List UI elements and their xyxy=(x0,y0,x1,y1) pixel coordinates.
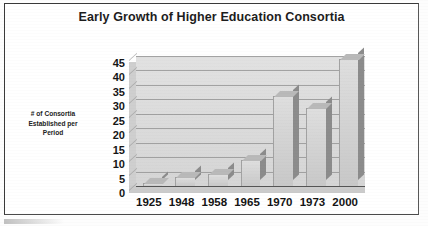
bar-slot xyxy=(339,56,359,186)
bar-side-face xyxy=(326,97,332,180)
bar-top-face xyxy=(144,178,169,184)
y-axis-title-line-3: Period xyxy=(13,128,93,138)
bar-side-face xyxy=(358,47,364,180)
bar-side-face xyxy=(260,149,266,180)
bar-1965[interactable] xyxy=(241,160,261,186)
y-axis-tick-20: 20 xyxy=(113,130,125,141)
bar-slot xyxy=(273,56,293,186)
bar-slot xyxy=(175,56,195,186)
page-edge-artifact xyxy=(4,219,64,224)
bar-1925[interactable] xyxy=(143,183,163,186)
y-axis-title: # of Consortia Established per Period xyxy=(13,109,93,138)
chart-frame: Early Growth of Higher Education Consort… xyxy=(4,3,419,215)
y-axis-tick-15: 15 xyxy=(113,144,125,155)
x-axis-tick-1958: 1958 xyxy=(201,197,227,209)
plot-area xyxy=(129,56,365,193)
y-axis-tick-25: 25 xyxy=(113,115,125,126)
x-axis-tick-1965: 1965 xyxy=(234,197,260,209)
bar-1970[interactable] xyxy=(273,96,293,186)
bar-slot xyxy=(306,56,326,186)
x-axis-tick-1948: 1948 xyxy=(169,197,195,209)
bars-layer xyxy=(136,56,365,186)
x-axis-tick-1970: 1970 xyxy=(267,197,293,209)
y-axis-title-line-2: Established per xyxy=(13,119,93,129)
bar-slot xyxy=(241,56,261,186)
y-axis-tick-5: 5 xyxy=(119,173,125,184)
bar-slot xyxy=(143,56,163,186)
bar-slot xyxy=(208,56,228,186)
x-axis-tick-labels: 1925194819581965197019732000 xyxy=(129,197,365,215)
y-axis-tick-40: 40 xyxy=(113,72,125,83)
plot-wrapper: 454035302520151050 192519481958196519701… xyxy=(101,56,401,211)
y-axis-tick-labels: 454035302520151050 xyxy=(101,56,125,193)
bar-1973[interactable] xyxy=(306,108,326,186)
bar-2000[interactable] xyxy=(339,59,359,186)
y-axis-tick-45: 45 xyxy=(113,58,125,69)
gridline-0 xyxy=(136,186,365,187)
y-axis-tick-30: 30 xyxy=(113,101,125,112)
chart-title: Early Growth of Higher Education Consort… xyxy=(5,10,418,24)
bar-1948[interactable] xyxy=(175,177,195,186)
x-axis-tick-1973: 1973 xyxy=(300,197,326,209)
chart-screenshot: Early Growth of Higher Education Consort… xyxy=(0,0,428,226)
y-axis-tick-35: 35 xyxy=(113,86,125,97)
bar-side-face xyxy=(293,85,299,180)
x-axis-tick-2000: 2000 xyxy=(332,197,358,209)
y-axis-tick-10: 10 xyxy=(113,159,125,170)
y-axis-tick-0: 0 xyxy=(119,188,125,199)
y-axis-title-line-1: # of Consortia xyxy=(13,109,93,119)
x-axis-tick-1925: 1925 xyxy=(136,197,162,209)
bar-1958[interactable] xyxy=(208,174,228,186)
